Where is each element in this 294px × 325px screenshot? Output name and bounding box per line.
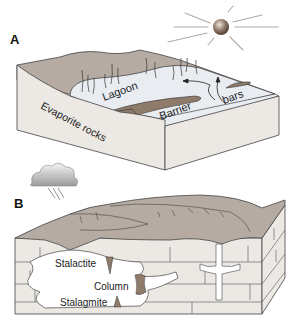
panel-a-letter: A (10, 32, 20, 47)
label-column: Column (94, 281, 128, 292)
panel-b: B (14, 195, 285, 314)
label-stalactite: Stalactite (55, 258, 97, 269)
panel-b-letter: B (14, 196, 23, 211)
rain-cloud-icon (30, 163, 77, 200)
column (135, 274, 146, 294)
label-stalagmite: Stalagmite (60, 297, 108, 308)
panel-a: A (10, 6, 279, 170)
geology-diagram: A (0, 0, 294, 325)
sun-icon (168, 6, 278, 50)
